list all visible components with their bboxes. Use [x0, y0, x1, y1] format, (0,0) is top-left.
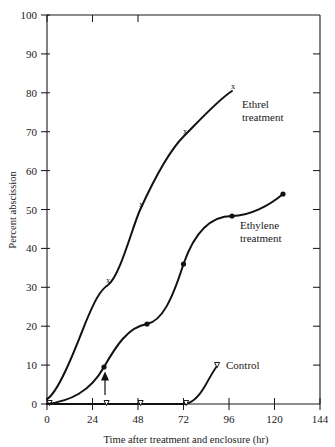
y-tick-50: 50 [26, 204, 38, 216]
series-control [47, 363, 220, 406]
ethrel-curve [47, 91, 232, 399]
ethrel-marker-82pct: x [231, 81, 236, 91]
right-axis-ticks [313, 54, 320, 365]
y-axis-ticks [41, 15, 50, 404]
x-tick-96: 96 [224, 413, 236, 425]
y-tick-70: 70 [26, 126, 38, 138]
y-tick-10: 10 [26, 359, 38, 371]
y-tick-100: 100 [21, 9, 38, 21]
x-axis-tick-labels: 0 24 48 72 96 120 144 [44, 413, 329, 425]
y-tick-90: 90 [26, 48, 38, 60]
treatment-arrow-annotation [102, 373, 108, 395]
ethylene-marker-9.5pct [101, 364, 106, 369]
y-tick-30: 30 [26, 281, 38, 293]
ethrel-series-label-line2: treatment [242, 111, 284, 123]
ethrel-series-label-line1: Ethrel [242, 98, 269, 110]
x-tick-24: 24 [87, 413, 99, 425]
x-tick-0: 0 [44, 413, 50, 425]
y-tick-20: 20 [26, 320, 38, 332]
y-axis-tick-labels: 100 90 80 70 60 50 40 30 20 10 0 [21, 9, 38, 410]
y-tick-60: 60 [26, 165, 38, 177]
ethylene-marker-20.5pct [144, 321, 149, 326]
y-tick-80: 80 [26, 87, 38, 99]
x-tick-72: 72 [178, 413, 189, 425]
ethylene-marker-36pct [181, 261, 186, 266]
control-curve [47, 366, 217, 404]
x-tick-144: 144 [312, 413, 329, 425]
chart-svg: 100 90 80 70 60 50 40 30 20 10 0 [0, 0, 335, 447]
abscission-line-chart: 100 90 80 70 60 50 40 30 20 10 0 [0, 0, 335, 447]
series-ethrel: x x x x [47, 81, 236, 399]
x-tick-48: 48 [133, 413, 145, 425]
x-axis-title: Time after treatment and enclosure (hr) [104, 434, 269, 446]
ethylene-marker-48pct [229, 213, 234, 218]
y-tick-0: 0 [32, 398, 38, 410]
ethylene-series-label-line2: treatment [240, 232, 282, 244]
control-series-label: Control [226, 359, 260, 371]
treatment-arrow-head [102, 373, 108, 380]
ethylene-series-label-line1: Ethylene [240, 219, 279, 231]
top-axis-ticks [47, 15, 138, 22]
x-tick-120: 120 [266, 413, 283, 425]
y-axis-title: Percent abscission [7, 171, 18, 249]
plot-frame [47, 15, 320, 404]
y-tick-40: 40 [26, 242, 38, 254]
ethrel-marker-69pct: x [183, 126, 188, 136]
ethylene-marker-54.5pct [280, 191, 285, 196]
